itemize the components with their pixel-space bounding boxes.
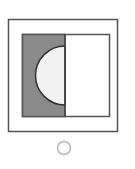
answer-option xyxy=(0,0,135,169)
radio-button[interactable] xyxy=(58,142,71,155)
